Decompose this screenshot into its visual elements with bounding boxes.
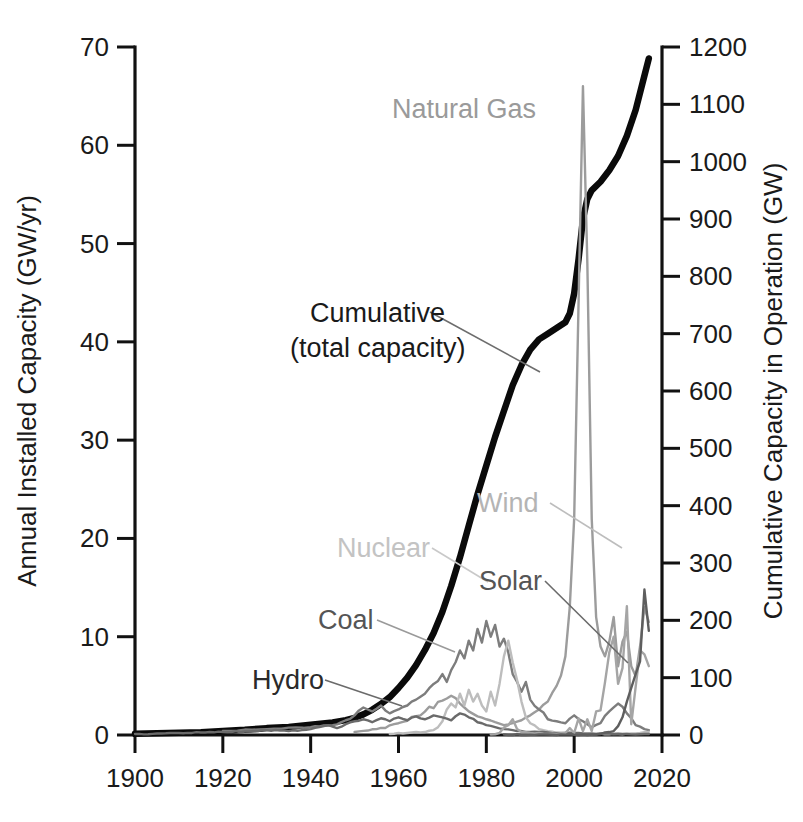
annotation-label-solar: Solar: [479, 566, 542, 596]
bottom-tick-label: 1940: [282, 763, 340, 793]
right-tick-label: 1000: [689, 147, 747, 177]
left-tick-label: 60: [80, 130, 109, 160]
right-tick-label: 400: [689, 491, 732, 521]
left-axis-title: Annual Installed Capacity (GW/yr): [12, 195, 42, 587]
right-tick-label: 900: [689, 204, 732, 234]
right-tick-label: 700: [689, 319, 732, 349]
series-cumulative-total-capacity: [135, 58, 649, 733]
left-tick-label: 0: [95, 720, 109, 750]
right-axis-title: Cumulative Capacity in Operation (GW): [758, 163, 788, 620]
left-tick-label: 70: [80, 32, 109, 62]
annotation-label-nuclear: Nuclear: [337, 533, 430, 563]
left-tick-label: 30: [80, 425, 109, 455]
bottom-tick-label: 1960: [370, 763, 428, 793]
right-tick-label: 200: [689, 605, 732, 635]
bottom-tick-label: 1900: [106, 763, 164, 793]
bottom-axis-ticks: 1900192019401960198020002020: [106, 735, 691, 793]
left-axis-ticks: 010203040506070: [80, 32, 135, 750]
right-tick-label: 300: [689, 548, 732, 578]
energy-capacity-chart: 010203040506070 010020030040050060070080…: [0, 0, 803, 822]
leader-line-coal: [377, 620, 455, 652]
left-tick-label: 40: [80, 327, 109, 357]
right-tick-label: 0: [689, 720, 703, 750]
chart-container: 010203040506070 010020030040050060070080…: [0, 0, 803, 822]
right-axis-ticks: 0100200300400500600700800900100011001200: [662, 32, 747, 750]
bottom-tick-label: 2020: [633, 763, 691, 793]
right-tick-label: 1200: [689, 32, 747, 62]
right-tick-label: 1100: [689, 89, 745, 119]
axes-group: [135, 47, 662, 735]
series-annotation-labels: Natural GasCumulative(total capacity)Win…: [252, 94, 542, 695]
left-tick-label: 20: [80, 523, 109, 553]
leader-line-solar: [545, 581, 628, 663]
right-tick-label: 800: [689, 261, 732, 291]
annotation-label-cumulative-2: (total capacity): [290, 333, 466, 363]
left-tick-label: 50: [80, 229, 109, 259]
bottom-tick-label: 1920: [194, 763, 252, 793]
annotation-label-hydro: Hydro: [252, 665, 324, 695]
annotation-label-natural-gas: Natural Gas: [392, 94, 536, 124]
annotation-label-wind: Wind: [477, 488, 539, 518]
right-tick-label: 100: [689, 663, 732, 693]
leader-line-wind: [550, 503, 622, 548]
annotation-label-cumulative: Cumulative: [310, 298, 445, 328]
bottom-tick-label: 2000: [545, 763, 603, 793]
series-lines-group: [135, 58, 649, 735]
right-tick-label: 500: [689, 433, 732, 463]
left-tick-label: 10: [80, 622, 109, 652]
bottom-tick-label: 1980: [457, 763, 515, 793]
annotation-label-coal: Coal: [318, 605, 374, 635]
right-tick-label: 600: [689, 376, 732, 406]
